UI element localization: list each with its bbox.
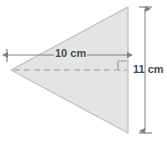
base-dimension-label: 10 cm	[54, 48, 87, 59]
geometry-diagram: 10 cm 11 cm	[0, 0, 167, 141]
height-dimension-label: 11 cm	[133, 64, 164, 75]
